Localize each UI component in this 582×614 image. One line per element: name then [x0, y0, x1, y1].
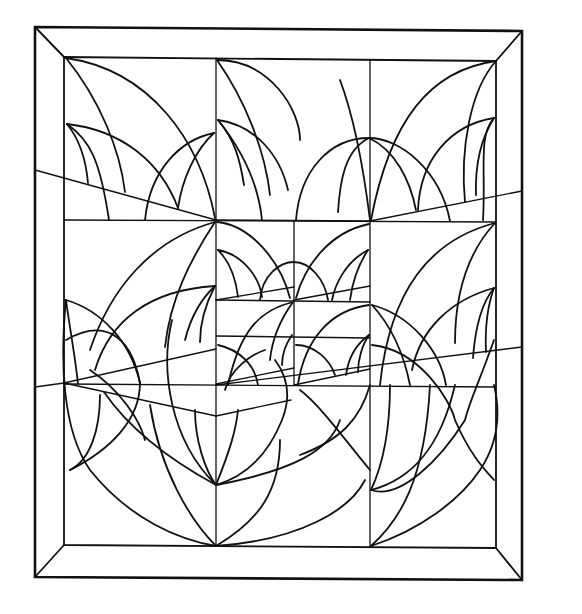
arc [350, 250, 368, 300]
outer-frame-border [35, 27, 522, 580]
arc [455, 223, 495, 343]
arc [90, 222, 215, 350]
arc [216, 440, 280, 546]
arc [178, 133, 214, 208]
arc [483, 118, 494, 220]
arc [67, 124, 178, 208]
arc [371, 61, 496, 220]
inner-frame-border [64, 57, 496, 548]
arc [67, 124, 109, 220]
arc [66, 300, 78, 384]
arc [104, 392, 216, 485]
arc [216, 360, 287, 485]
arc [300, 385, 370, 455]
arc [371, 385, 455, 490]
arc [70, 395, 100, 470]
arc [66, 58, 215, 218]
diag-top-left [35, 170, 216, 220]
arc [476, 118, 494, 195]
diag-center-upper [216, 287, 294, 300]
arc [418, 118, 494, 210]
diag-mid-left-up [64, 349, 216, 383]
diag-mid-center [216, 400, 291, 416]
arc [371, 385, 390, 490]
arc [217, 60, 300, 140]
arc [216, 410, 238, 485]
arc [217, 222, 290, 298]
diag-mid-right [216, 347, 522, 385]
frame-bevel-top-right [496, 31, 522, 61]
arc [412, 288, 494, 370]
arc [270, 302, 293, 360]
arc [216, 480, 365, 546]
main-grid [64, 58, 496, 547]
center-divider-horizontal-b [216, 336, 370, 338]
diag-mid-left-stub [35, 383, 64, 387]
frame-bevel-bottom-right [496, 548, 522, 580]
arcs-middle-row [66, 222, 495, 385]
arc [464, 61, 496, 202]
grid-horizontal-bottom [64, 384, 496, 387]
frame-bevel-top-left [35, 27, 64, 57]
arc [63, 300, 216, 546]
arc [282, 335, 292, 365]
arc [372, 345, 494, 480]
frame-bevel-bottom-left [35, 545, 64, 577]
picture-frame [35, 27, 522, 580]
arc [372, 305, 446, 385]
arc [70, 383, 140, 470]
artwork-canvas [0, 0, 582, 614]
arc [296, 224, 369, 298]
diagonal-lines [35, 170, 522, 416]
